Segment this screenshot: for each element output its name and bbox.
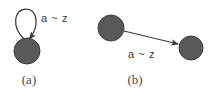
directed-edge-label: a ~ z — [128, 48, 155, 60]
node-a[interactable] — [14, 38, 40, 64]
panel-b: a ~ z (b) — [98, 15, 203, 87]
directed-edge — [124, 31, 178, 44]
node-b-left[interactable] — [98, 15, 124, 41]
self-loop-edge — [16, 9, 36, 40]
figure-container: a ~ z (a) a ~ z (b) — [0, 0, 211, 97]
node-b-right[interactable] — [179, 36, 203, 60]
self-loop-edge-label: a ~ z — [41, 12, 68, 24]
panel-a-caption: (a) — [22, 72, 36, 87]
panel-b-caption: (b) — [127, 72, 142, 87]
panel-a: a ~ z (a) — [14, 9, 68, 87]
figure-svg: a ~ z (a) a ~ z (b) — [0, 0, 211, 97]
